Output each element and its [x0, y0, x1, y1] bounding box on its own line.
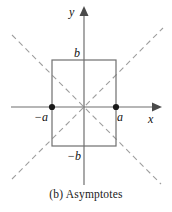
x-axis-arrow-icon [152, 103, 162, 112]
label-b: b [74, 47, 80, 59]
coordinate-plot [0, 0, 172, 212]
vertex-point-negative-a [49, 104, 55, 110]
y-axis-label: y [69, 6, 74, 18]
x-axis-label: x [148, 113, 153, 125]
y-axis-arrow-icon [80, 6, 89, 16]
asymptote-positive-slope-line [12, 28, 163, 179]
label-a: a [117, 111, 123, 123]
figure-caption: (b) Asymptotes [0, 188, 172, 200]
asymptotes-figure: y x b −b −a a (b) Asymptotes [0, 0, 172, 212]
label-negative-a: −a [34, 111, 48, 123]
label-negative-b: −b [67, 150, 81, 162]
